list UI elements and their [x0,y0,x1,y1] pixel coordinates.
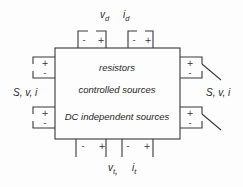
label-right-sources: S, v, i [206,87,231,98]
label-terminal-voltage: vt, [108,162,118,176]
label-left-sources: S, v, i [13,87,38,98]
bottom-port-1-minus: - [81,141,84,151]
bottom-port-1-plus: + [98,141,105,151]
circuit-network-diagram: resistors controlled sources DC independ… [0,0,243,187]
bottom-port-2-plus: + [143,141,150,151]
bottom-port-2-minus: - [126,141,129,151]
left-port-1-plus: + [41,58,48,68]
top-port-2-plus: + [144,35,151,45]
top-port-2-minus: - [132,35,135,45]
box-content-dc-independent-sources: DC independent sources [65,111,170,122]
top-port-1-plus: + [97,35,104,45]
right-port-1-switch-blade [202,64,221,80]
label-differential-current: id [123,9,130,23]
box-content-resistors: resistors [99,62,135,73]
right-port-1-minus: - [188,68,191,78]
left-port-1-minus: - [43,68,46,78]
top-port-1-minus: - [82,35,85,45]
diagram-canvas: resistors controlled sources DC independ… [0,0,243,187]
right-port-1-plus: + [186,58,193,68]
label-vd-sub: d [105,14,110,23]
left-port-2-minus: - [43,118,46,128]
label-bottom-comma: , [115,165,118,176]
label-it-sub: t [134,167,137,176]
label-differential-voltage: vd [100,9,110,23]
right-port-2-plus: + [186,108,193,118]
right-port-2-minus: - [188,118,191,128]
label-terminal-current: it [132,162,137,176]
left-port-2-plus: + [41,108,48,118]
label-id-sub: d [125,14,130,23]
box-content-controlled-sources: controlled sources [78,84,155,95]
right-port-2-switch-blade [202,114,221,130]
